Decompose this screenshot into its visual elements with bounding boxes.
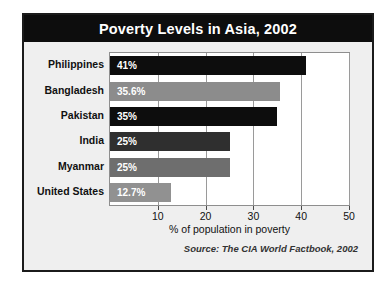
bar-row: 41% xyxy=(110,56,349,75)
bar: 35.6% xyxy=(110,82,280,101)
source-note: Source: The CIA World Factbook, 2002 xyxy=(184,243,358,254)
x-axis-ticks: 1020304050 xyxy=(109,206,350,222)
bar-value-label: 35.6% xyxy=(110,86,145,97)
category-label-pakistan: Pakistan xyxy=(24,106,104,125)
chart-title: Poverty Levels in Asia, 2002 xyxy=(99,21,297,37)
bar-row: 35% xyxy=(110,107,349,126)
bar-value-label: 35% xyxy=(110,111,137,122)
bar: 41% xyxy=(110,56,306,75)
bar-value-label: 25% xyxy=(110,136,137,147)
bar-row: 25% xyxy=(110,158,349,177)
tick-label-50: 50 xyxy=(343,210,355,222)
bar-row: 35.6% xyxy=(110,82,349,101)
tick-label-20: 20 xyxy=(200,210,212,222)
category-label-india: India xyxy=(24,131,104,150)
bar: 35% xyxy=(110,107,277,126)
tick-label-40: 40 xyxy=(295,210,307,222)
bar-value-label: 25% xyxy=(110,162,137,173)
category-label-philippines: Philippines xyxy=(24,55,104,74)
tick-label-10: 10 xyxy=(152,210,164,222)
bar-row: 12.7% xyxy=(110,183,349,202)
chart-title-banner: Poverty Levels in Asia, 2002 xyxy=(24,15,372,42)
category-axis-labels: PhilippinesBangladeshPakistanIndiaMyanma… xyxy=(24,52,104,206)
tick-label-30: 30 xyxy=(248,210,260,222)
bar-value-label: 41% xyxy=(110,60,137,71)
gridline-50 xyxy=(349,53,350,205)
bar: 12.7% xyxy=(110,183,171,202)
category-label-bangladesh: Bangladesh xyxy=(24,81,104,100)
bar-series: 41%35.6%35%25%25%12.7% xyxy=(110,53,349,205)
bar-row: 25% xyxy=(110,132,349,151)
bar: 25% xyxy=(110,132,230,151)
x-axis-title: % of population in poverty xyxy=(109,223,350,235)
bar-value-label: 12.7% xyxy=(110,187,145,198)
category-label-united-states: United States xyxy=(24,182,104,201)
plot-area: 41%35.6%35%25%25%12.7% xyxy=(109,52,350,206)
bar: 25% xyxy=(110,158,230,177)
category-label-myanmar: Myanmar xyxy=(24,157,104,176)
chart-figure: Poverty Levels in Asia, 2002 Philippines… xyxy=(22,13,374,272)
